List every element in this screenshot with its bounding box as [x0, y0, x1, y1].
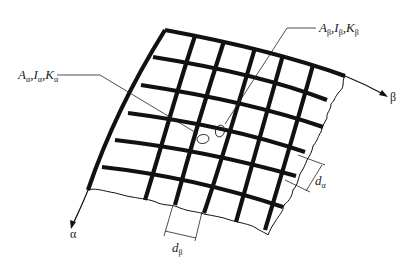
dim-extension-line	[195, 212, 202, 241]
beta-axis-line	[345, 76, 383, 94]
dim-line	[165, 231, 196, 238]
beta-axis-label: β	[390, 90, 396, 104]
shell-right-torn-edge	[268, 76, 345, 235]
grid-shell-diagram: Aα,Iα,Kα Aβ,Iβ,Kβ α β dα dβ	[0, 0, 409, 262]
row-beam	[102, 167, 283, 207]
alpha-props-leader	[57, 75, 198, 134]
alpha-beam-section-marker	[196, 134, 209, 145]
spacing-alpha-label: dα	[315, 173, 327, 190]
beta-props-label: Aβ,Iβ,Kβ	[318, 20, 359, 37]
beta-axis-arrowhead	[379, 90, 388, 97]
alpha-axis-label: α	[70, 227, 77, 241]
spacing-beta-label: dβ	[172, 240, 183, 257]
alpha-axis-line	[73, 190, 88, 224]
spacing-beta-dimension: dβ	[164, 205, 202, 257]
dim-extension-line	[298, 155, 325, 165]
alpha-props-label: Aα,Iα,Kα	[17, 67, 59, 84]
